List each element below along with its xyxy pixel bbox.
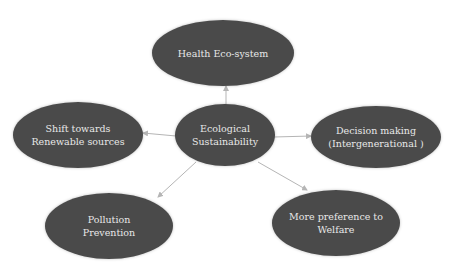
connector-right xyxy=(274,136,311,137)
node-decision-making: Decision making (Intergenerational ) xyxy=(311,106,441,168)
node-welfare: More preference to Welfare xyxy=(272,190,400,256)
node-label: Decision making (Intergenerational ) xyxy=(328,124,423,150)
node-label: Ecological Sustainability xyxy=(192,122,258,148)
node-label: Pollution Prevention xyxy=(83,213,135,239)
node-label: More preference to Welfare xyxy=(289,210,383,236)
node-label: Health Eco-system xyxy=(178,47,268,60)
node-ecological-sustainability: Ecological Sustainability xyxy=(175,104,275,166)
connector-left xyxy=(143,133,176,136)
node-pollution-prevention: Pollution Prevention xyxy=(45,193,173,259)
connector-bottom-right xyxy=(258,162,307,190)
node-label: Shift towards Renewable sources xyxy=(31,122,124,148)
node-renewable-sources: Shift towards Renewable sources xyxy=(13,102,143,168)
connector-bottom-left xyxy=(158,162,196,197)
node-health-ecosystem: Health Eco-system xyxy=(152,20,294,86)
